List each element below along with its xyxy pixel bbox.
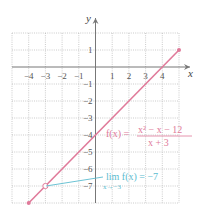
axes [12,18,190,203]
function-label-prefix: f(x) = [106,128,129,140]
line-end-arrow [27,201,31,205]
limit-label: lim f(x) = −7 [106,171,158,183]
x-axis-label: x [187,67,193,79]
x-tick-label: 4 [160,71,165,81]
line-end-arrow [177,48,181,52]
x-tick-label: 2 [127,71,132,81]
annotations: x y f(x) = x² − x − 12 x + 3 lim f(x) = … [46,12,193,191]
function-label-denominator: x + 3 [148,137,169,148]
x-tick-label: −3 [41,71,51,81]
y-tick-label: −6 [83,164,93,174]
limit-subscript: x→−3 [103,183,121,191]
chart: −4−3−2−112341−1−2−3−4−5−6−7 x y f(x) = x… [0,0,207,218]
x-tick-label: −4 [24,71,34,81]
y-axis-label: y [85,12,91,24]
y-tick-label: −2 [83,96,93,106]
function-label-numerator: x² − x − 12 [138,124,182,135]
x-tick-label: −2 [57,71,67,81]
y-tick-label: 1 [88,45,93,55]
x-tick-label: 3 [143,71,148,81]
y-tick-label: −7 [83,181,93,191]
y-tick-label: −5 [83,147,93,157]
x-tick-label: 1 [110,71,115,81]
y-tick-label: −3 [83,113,93,123]
limit-leader-line [46,177,103,186]
y-tick-label: −1 [83,79,93,89]
